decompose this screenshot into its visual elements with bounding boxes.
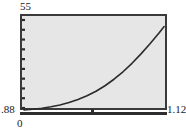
y-axis-tick: [22, 48, 25, 50]
y-axis-tick: [22, 87, 25, 89]
y-axis-tick: [22, 97, 25, 99]
x-axis-tick-mark: [91, 109, 94, 112]
y-axis-tick: [22, 58, 25, 60]
plot-area: [20, 14, 167, 110]
chart-figure: 55 .88 0 1.12: [0, 0, 186, 133]
y-axis-tick: [22, 29, 25, 31]
y-axis-ticks: [22, 19, 25, 109]
x-axis-baseline: [20, 112, 167, 115]
y-axis-tick: [22, 38, 25, 40]
plot-canvas: [22, 16, 169, 112]
y-axis-tick: [22, 78, 25, 80]
y-axis-min-label: .88: [1, 104, 15, 115]
y-axis-tick: [22, 19, 25, 21]
y-axis-max-label: 55: [20, 1, 31, 12]
y-axis-tick: [22, 68, 25, 70]
x-axis-min-label: 0: [17, 118, 23, 129]
x-axis-max-label: 1.12: [167, 104, 186, 115]
data-series-curve: [24, 27, 164, 110]
y-axis-tick: [22, 107, 25, 109]
